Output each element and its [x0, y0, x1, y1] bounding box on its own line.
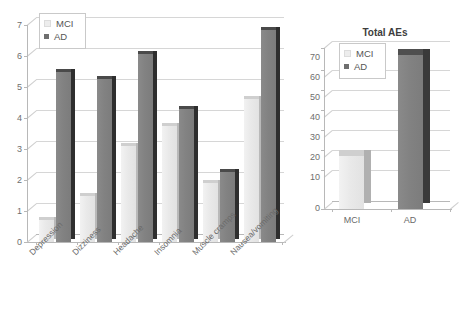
grid-depth-5 [27, 79, 37, 87]
grid-line-30 [332, 130, 450, 131]
bar-top-face [220, 169, 235, 172]
grid-depth-top [27, 17, 37, 25]
y-tickmark [24, 149, 27, 150]
bar-ad-depression [56, 72, 71, 242]
bar-top-face [203, 180, 218, 183]
legend-item-ad: AD [344, 60, 379, 73]
y-tick-label: 40 [302, 113, 320, 122]
grid-depth-4 [27, 110, 37, 118]
grid-depth-top [324, 41, 333, 49]
y-tick-label: 5 [8, 83, 22, 92]
y-tick-label: 6 [8, 52, 22, 61]
legend-item-mci: MCI [344, 47, 379, 60]
y-tickmark [24, 242, 27, 243]
x-tickmark [391, 209, 392, 212]
grid-line-50 [332, 90, 450, 91]
bar-front-face [97, 79, 112, 242]
floor-right-edge [450, 202, 459, 210]
bar-top-face [179, 106, 194, 109]
bar-front-face [179, 109, 194, 242]
grid-depth-6 [27, 48, 37, 56]
grid-depth-40 [324, 110, 333, 118]
legend-swatch-mci-icon [44, 20, 51, 27]
bar-front-face [56, 72, 71, 242]
grid-depth-3 [27, 141, 37, 149]
bar-side-face [276, 27, 280, 239]
bar-front-face [398, 55, 423, 209]
legend-right-chart: MCI AD [339, 43, 386, 79]
x-category-label-mci: MCI [332, 215, 372, 225]
y-tick-label: 1 [8, 207, 22, 216]
legend-item-ad: AD [44, 30, 79, 43]
x-tickmark [450, 209, 451, 212]
y-tickmark [321, 209, 324, 210]
bar-top-face [56, 69, 71, 72]
grid-depth-30 [324, 130, 333, 138]
y-tickmark [321, 70, 324, 71]
legend-swatch-ad-icon [344, 64, 349, 69]
bar-top-face [398, 49, 423, 55]
bar-mci-insomnia [162, 126, 177, 242]
floor-right-edge [284, 234, 294, 242]
y-tickmark [24, 211, 27, 212]
y-tick-label: 2 [8, 176, 22, 185]
legend-item-mci: MCI [44, 17, 79, 30]
bar-top-face [339, 150, 364, 156]
bar-front-face [138, 54, 153, 242]
y-tick-label: 7 [8, 21, 22, 30]
chart-adverse-events-by-type: 7 6 5 4 3 2 1 0 [0, 0, 300, 319]
y-tickmark [321, 90, 324, 91]
bar-side-face [71, 69, 75, 239]
grid-back-top [332, 41, 450, 42]
legend-label-ad: AD [54, 31, 67, 42]
legend-left-chart: MCI AD [39, 13, 86, 49]
y-tickmark [24, 118, 27, 119]
grid-line-40 [332, 110, 450, 111]
y-tickmark [321, 170, 324, 171]
chart-title-total-aes: Total AEs [330, 27, 440, 38]
y-tick-label: 4 [8, 114, 22, 123]
legend-swatch-ad-icon [44, 34, 49, 39]
bar-top-face [244, 96, 259, 99]
legend-label-mci: MCI [356, 48, 373, 59]
bar-top-face [80, 193, 95, 196]
y-tickmark [321, 48, 324, 49]
bar-side-face [364, 150, 371, 203]
bar-top-face [162, 123, 177, 126]
grid-depth-60 [324, 70, 333, 78]
x-tickmark [332, 209, 333, 212]
bar-total-mci [339, 156, 364, 209]
grid-depth-1 [27, 203, 37, 211]
y-tickmark [24, 87, 27, 88]
y-tick-label: 50 [302, 93, 320, 102]
bar-top-face [138, 51, 153, 54]
y-tick-label: 0 [302, 204, 320, 213]
y-tick-label: 3 [8, 145, 22, 154]
bar-total-ad [398, 55, 423, 209]
y-axis-line [27, 25, 28, 242]
y-tickmark [24, 180, 27, 181]
bar-top-face [97, 76, 112, 79]
grid-depth-50 [324, 90, 333, 98]
y-tick-label: 10 [302, 173, 320, 182]
bar-side-face [235, 169, 239, 239]
bar-side-face [194, 106, 198, 239]
figure-adverse-events: 7 6 5 4 3 2 1 0 [0, 0, 459, 319]
y-tickmark [321, 150, 324, 151]
legend-swatch-mci-icon [344, 50, 351, 57]
bar-top-face [261, 27, 276, 30]
grid-depth-20 [324, 150, 333, 158]
y-tick-label: 30 [302, 133, 320, 142]
bar-side-face [153, 51, 157, 239]
bar-top-face [121, 143, 136, 146]
grid-depth-10 [324, 170, 333, 178]
bar-ad-dizziness [97, 79, 112, 242]
bar-ad-headache [138, 54, 153, 242]
y-tick-label: 60 [302, 73, 320, 82]
bar-ad-insomnia [179, 109, 194, 242]
y-tick-label: 70 [302, 53, 320, 62]
chart-total-aes: Total AEs 70 60 50 40 30 20 10 0 [300, 0, 459, 319]
y-tickmark [24, 56, 27, 57]
y-axis-line [324, 48, 325, 209]
bar-front-face [339, 156, 364, 209]
